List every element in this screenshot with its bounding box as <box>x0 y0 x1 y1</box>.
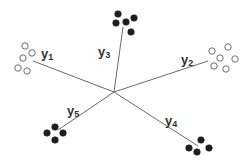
open-circle-icon <box>232 56 238 62</box>
filled-circle-icon <box>115 11 122 18</box>
open-circle-icon <box>217 55 223 61</box>
filled-circle-icon <box>113 20 120 27</box>
star-diagram: y1y2y3y4y5 <box>0 0 246 165</box>
dot-cluster-y3 <box>113 11 138 36</box>
axis-lines <box>33 27 208 146</box>
open-circle-icon <box>209 48 215 54</box>
open-circle-icon <box>20 55 26 61</box>
filled-circle-icon <box>44 130 51 137</box>
axis-line-y3 <box>114 27 123 92</box>
axis-label-y1: y1 <box>41 46 53 62</box>
open-circle-icon <box>29 50 35 56</box>
filled-circle-icon <box>60 130 67 137</box>
axis-labels: y1y2y3y4y5 <box>41 44 193 129</box>
open-circle-icon <box>22 43 28 49</box>
axis-label-y3: y3 <box>98 44 110 60</box>
open-circle-icon <box>211 63 217 69</box>
dot-clusters <box>15 11 238 156</box>
axis-label-y4: y4 <box>165 113 177 129</box>
axis-label-y2: y2 <box>181 52 193 68</box>
open-circle-icon <box>15 65 21 71</box>
filled-circle-icon <box>128 29 135 36</box>
filled-circle-icon <box>52 137 59 144</box>
open-circle-icon <box>24 68 30 74</box>
open-circle-icon <box>223 66 229 72</box>
filled-circle-icon <box>131 15 138 22</box>
axis-line-y1 <box>33 61 114 92</box>
filled-circle-icon <box>194 149 201 156</box>
filled-circle-icon <box>186 145 193 152</box>
dot-cluster-y2 <box>209 44 238 72</box>
axis-line-y4 <box>114 92 198 146</box>
filled-circle-icon <box>206 145 213 152</box>
dot-cluster-y1 <box>15 43 35 74</box>
open-circle-icon <box>225 44 231 50</box>
axis-line-y2 <box>114 61 208 92</box>
axis-label-y5: y5 <box>67 103 79 119</box>
filled-circle-icon <box>123 19 130 26</box>
dot-cluster-y4 <box>186 137 213 156</box>
filled-circle-icon <box>52 124 59 131</box>
filled-circle-icon <box>198 137 205 144</box>
